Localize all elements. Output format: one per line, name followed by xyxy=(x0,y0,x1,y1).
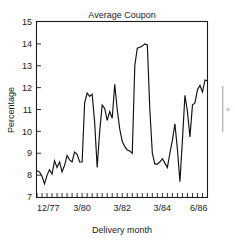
y-tick-label: 12 xyxy=(22,83,32,93)
x-tick-label: 12/77 xyxy=(37,203,60,213)
x-tick-label: 3/82 xyxy=(113,203,131,213)
x-tick-label: 3/84 xyxy=(154,203,172,213)
y-tick-label: 9 xyxy=(27,148,32,158)
y-axis-title: Percentage xyxy=(6,87,16,133)
y-tick-label: 8 xyxy=(27,170,32,180)
edge-mark-glyph: » xyxy=(226,106,230,113)
y-tick-label: 14 xyxy=(22,39,32,49)
x-tick-label: 3/80 xyxy=(73,203,91,213)
y-tick-label: 7 xyxy=(27,192,32,202)
x-axis-title: Delivery month xyxy=(92,225,152,235)
average-coupon-line-chart: Average Coupon Percentage Delivery month… xyxy=(0,0,235,244)
x-tick-label: 6/86 xyxy=(190,203,208,213)
y-tick-label: 11 xyxy=(23,105,32,115)
chart-title: Average Coupon xyxy=(88,10,155,20)
y-tick-label: 15 xyxy=(22,17,32,27)
y-tick-label: 10 xyxy=(22,127,32,137)
page-edge-artifact xyxy=(222,86,223,132)
y-tick-label: 13 xyxy=(22,61,32,71)
chart-figure: Average Coupon Percentage Delivery month… xyxy=(0,0,235,244)
